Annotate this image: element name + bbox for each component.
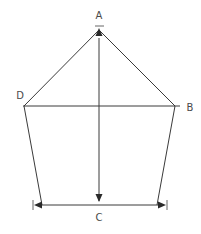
label-c: C [96, 212, 103, 223]
label-d: D [16, 90, 24, 101]
edge-d-bottom-left [24, 106, 42, 205]
edge-a-d [24, 30, 99, 106]
base-arrow-left-icon [34, 202, 42, 209]
height-arrow-head-bottom-icon [96, 194, 103, 202]
label-b: B [187, 102, 194, 113]
label-a: A [96, 10, 103, 21]
edge-a-b [99, 30, 175, 106]
base-arrow-right-icon [158, 202, 166, 209]
diagram-canvas: A D B C [0, 0, 201, 234]
edge-b-bottom-right [157, 106, 175, 205]
